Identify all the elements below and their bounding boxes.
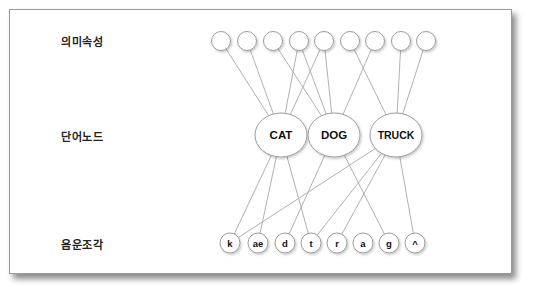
phoneme-node-label: d: [282, 238, 288, 249]
feature-word-link: [354, 50, 386, 115]
feature-word-link: [397, 50, 400, 113]
feature-word-link: [278, 49, 321, 116]
semantic-feature-node-f2: [238, 32, 257, 51]
semantic-feature-node-f1: [212, 32, 231, 51]
word-nodes: CATDOGTRUCK: [255, 113, 422, 157]
phoneme-node-label: ae: [253, 238, 264, 249]
semantic-feature-node-f4: [290, 32, 309, 51]
semantic-feature-node-f6: [341, 32, 360, 51]
semantic-feature-node-f3: [264, 32, 283, 51]
semantic-feature-node-f7: [366, 32, 385, 51]
phoneme-nodes: kaedtrag^: [220, 233, 425, 253]
semantic-feature-nodes: [212, 32, 436, 51]
feature-word-link: [343, 50, 371, 115]
semantic-feature-node-f8: [392, 32, 411, 51]
phoneme-node-label: k: [227, 238, 233, 249]
phoneme-node-label: r: [335, 238, 339, 249]
phoneme-node-label: a: [360, 238, 366, 249]
word-phoneme-link: [238, 148, 375, 237]
feature-word-link: [325, 50, 332, 113]
phoneme-node-label: g: [386, 238, 392, 249]
word-node-label: CAT: [270, 129, 293, 141]
word-node-label: DOG: [321, 129, 347, 141]
word-phoneme-link: [400, 157, 413, 233]
feature-word-link: [290, 50, 320, 115]
feature-word-link: [403, 50, 423, 114]
semantic-feature-node-f9: [417, 32, 436, 51]
word-phoneme-link: [289, 156, 325, 234]
semantic-feature-node-f5: [315, 32, 334, 51]
word-phoneme-link: [234, 155, 271, 234]
phoneme-node-label: ^: [412, 238, 418, 249]
network-diagram: CATDOGTRUCK kaedtrag^: [0, 0, 534, 287]
word-phoneme-link: [287, 156, 308, 233]
word-node-label: TRUCK: [378, 129, 415, 141]
